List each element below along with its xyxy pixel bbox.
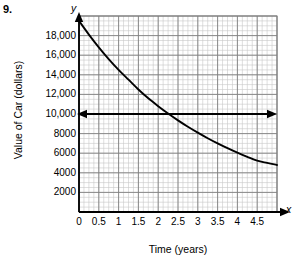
x-tick-label: 2.5 <box>171 216 185 227</box>
graph-figure: 9. Value of Car (dollars) Time (years) y… <box>0 0 299 265</box>
x-tick-label: 3.5 <box>211 216 225 227</box>
x-tick-label: 0.5 <box>92 216 106 227</box>
x-tick-label-group: 00.511.522.533.544.5 <box>0 0 299 265</box>
x-tick-label: 4 <box>235 216 241 227</box>
x-tick-label: 1.5 <box>131 216 145 227</box>
x-tick-label: 1 <box>116 216 122 227</box>
x-tick-label: 3 <box>195 216 201 227</box>
x-tick-label: 0 <box>76 216 82 227</box>
x-tick-label: 2 <box>155 216 161 227</box>
x-tick-label: 4.5 <box>250 216 264 227</box>
